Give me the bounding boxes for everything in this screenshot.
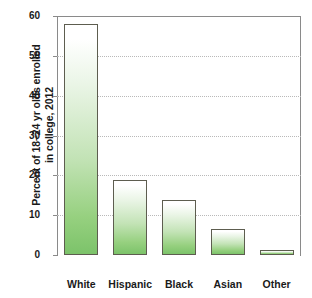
bar-hispanic [113,180,147,255]
y-axis-tick-label: 0 [16,249,40,260]
y-axis-tick-label: 60 [16,10,40,21]
x-axis-label-black: Black [155,278,204,290]
y-axis-tick-mark [53,215,57,216]
y-axis-tick-label: 10 [16,209,40,220]
y-axis-tick-label: 50 [16,50,40,61]
bar-asian [211,229,245,255]
y-axis-tick-mark [53,175,57,176]
y-axis-title-line-2: in college, 2012 [43,87,56,163]
plot-area: 0102030405060 WhiteHispanicBlackAsianOth… [57,16,301,255]
x-axis-label-asian: Asian [203,278,252,290]
bar-black [162,200,196,255]
x-axis-label-other: Other [252,278,301,290]
x-axis-label-white: White [57,278,106,290]
y-axis-tick-mark [53,16,57,17]
y-axis-tick-mark [53,136,57,137]
y-axis-tick-mark [53,255,57,256]
x-axis-label-hispanic: Hispanic [106,278,155,290]
y-axis-tick-label: 40 [16,90,40,101]
bar-other [260,250,294,255]
bar-chart: Percent of 18–24 yr olds enrolled in col… [0,0,312,298]
y-axis-title-line-1: Percent of 18–24 yr olds enrolled [30,44,43,205]
y-axis-tick-label: 30 [16,130,40,141]
y-axis-tick-mark [53,56,57,57]
bar-white [64,24,98,255]
y-axis-tick-mark [53,96,57,97]
y-axis-tick-label: 20 [16,169,40,180]
